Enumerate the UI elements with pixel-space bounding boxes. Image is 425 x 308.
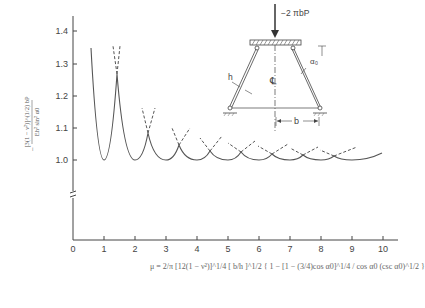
x-tick-2: 2	[132, 244, 137, 254]
x-tick-labels: 0 1 2 3 4 5 6 7 8 9 10	[70, 244, 388, 254]
y-axis-label: [3(1 − ν²)]^(1/2) bP Eh² sin² α0 −	[23, 96, 40, 151]
shell-diagram-inset: −2 πbP ℄ h α₀	[223, 4, 327, 132]
x-tick-7: 7	[287, 244, 292, 254]
y-tick-labels: 1.0 1.1 1.2 1.3 1.4	[55, 26, 68, 165]
y-label-numerator: [3(1 − ν²)]^(1/2) bP	[23, 96, 31, 148]
angle-label: α₀	[310, 57, 318, 66]
solid-envelope-curve	[91, 48, 382, 160]
x-tick-3: 3	[163, 244, 168, 254]
y-tick-1-1: 1.1	[55, 123, 68, 133]
x-tick-4: 4	[194, 244, 199, 254]
y-ticks	[73, 31, 77, 160]
x-tick-8: 8	[318, 244, 323, 254]
x-tick-6: 6	[256, 244, 261, 254]
y-tick-1-4: 1.4	[55, 26, 68, 36]
x-tick-9: 9	[349, 244, 354, 254]
thickness-label: h	[228, 72, 233, 82]
x-tick-10: 10	[378, 244, 388, 254]
centerline-label: ℄	[269, 75, 277, 86]
y-label-denominator: Eh² sin² α0	[33, 108, 40, 137]
y-tick-1-3: 1.3	[55, 59, 68, 69]
x-axis	[73, 236, 398, 240]
radius-label: b	[294, 116, 299, 126]
x-axis-formula: μ = 2/π [12(1 − ν²)]^1/4 [ b/h ]^1/2 { 1…	[150, 262, 425, 271]
y-tick-1-0: 1.0	[55, 155, 68, 165]
y-label-sign: −	[29, 147, 37, 151]
x-tick-1: 1	[101, 244, 106, 254]
y-tick-1-2: 1.2	[55, 91, 68, 101]
x-tick-5: 5	[225, 244, 230, 254]
load-label: −2 πbP	[281, 8, 310, 18]
x-tick-0: 0	[70, 244, 75, 254]
